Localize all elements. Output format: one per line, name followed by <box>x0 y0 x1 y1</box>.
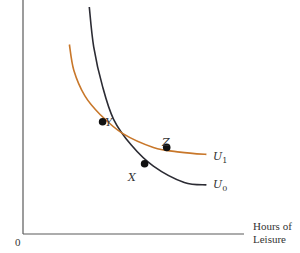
origin-label: 0 <box>15 236 21 248</box>
point-label-x: X <box>127 171 137 184</box>
point-x <box>141 160 149 168</box>
label-u1: U1 <box>213 150 227 165</box>
label-u0: U0 <box>213 178 227 193</box>
point-label-z: Z <box>161 136 170 149</box>
curve-u1 <box>69 45 206 155</box>
x-axis-title-line1: Hours of <box>253 220 292 232</box>
x-axis-title-line2: Leisure <box>253 233 286 245</box>
indifference-curve-diagram: U1 U0 Y Z X 0 Hours of Leisure <box>0 0 300 253</box>
curve-u0 <box>89 7 206 185</box>
